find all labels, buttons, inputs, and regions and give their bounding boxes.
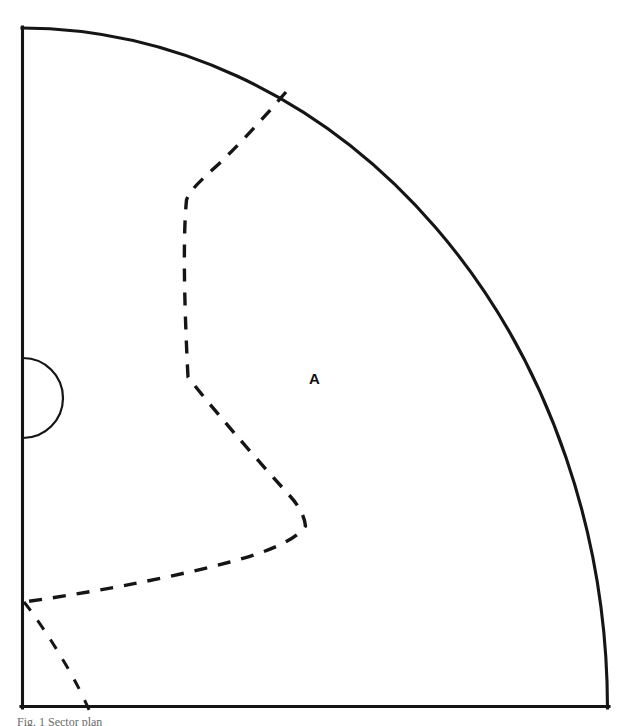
dashed-boundary-main (24, 92, 306, 602)
semicircle-notch-arc (23, 358, 63, 438)
region-label-a: A (309, 371, 320, 386)
figure-caption: Fig. 1 Sector plan (17, 716, 102, 726)
figure-canvas: A Fig. 1 Sector plan (0, 0, 627, 726)
dashed-boundary-branch (24, 602, 90, 712)
outer-arc-line (22, 28, 608, 708)
diagram-svg (0, 0, 627, 726)
